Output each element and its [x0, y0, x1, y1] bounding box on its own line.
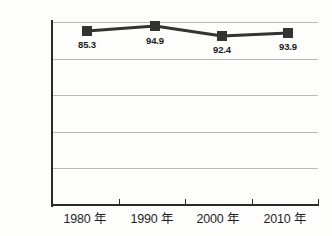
gridline-80: [52, 59, 318, 60]
gridline-100: [52, 22, 318, 23]
x-axis-tick-mark: [52, 199, 53, 206]
x-axis-category-label: 1980 年: [48, 208, 122, 227]
line-chart-figure: 100% 80% 60% 40% 20% 0% 85.3 94.9 92.4 9…: [0, 0, 332, 236]
gridline-40: [52, 132, 318, 133]
gridline-20: [52, 168, 318, 169]
x-axis-category-label: 2010 年: [248, 208, 322, 227]
data-point-label: 94.9: [132, 35, 178, 46]
x-axis-category-label: 1990 年: [115, 208, 189, 227]
data-point-label: 92.4: [199, 44, 245, 55]
data-point-label: 85.3: [64, 39, 110, 50]
gridline-60: [52, 95, 318, 96]
x-axis-tick-mark: [318, 199, 319, 206]
x-axis-tick-mark: [252, 199, 253, 206]
x-axis-category-label: 2000 年: [181, 208, 255, 227]
y-axis-line: [51, 20, 53, 207]
data-point-label: 93.9: [265, 41, 311, 52]
x-axis-tick-mark: [119, 199, 120, 206]
x-axis-tick-mark: [185, 199, 186, 206]
